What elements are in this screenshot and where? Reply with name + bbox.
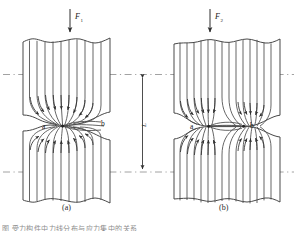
panel-caption-b: (b) [219, 203, 228, 212]
force-flow-diagram: F 1 [0, 0, 297, 231]
specimen-outline-a-upper [23, 38, 110, 126]
force-subscript-b: 2 [221, 18, 224, 23]
panel-b: F 2 [174, 9, 280, 203]
dimension-line-group: L [140, 78, 148, 169]
notch-label-b-right: b [250, 121, 254, 130]
force-arrow-b: F 2 [210, 9, 224, 32]
dimension-label: L [140, 123, 148, 128]
stress-concentration-point-b-left [207, 125, 210, 128]
notch-label-a-right: b [101, 119, 105, 128]
force-arrow-a: F 1 [70, 9, 84, 32]
figure-root: F 1 [0, 0, 297, 231]
force-label-a: F [74, 12, 80, 21]
force-label-b: F [214, 12, 220, 21]
panel-a: F 1 [23, 9, 110, 203]
force-subscript-a: 1 [81, 18, 84, 23]
stress-concentration-point-a [61, 125, 64, 128]
specimen-outline-a-lower [23, 125, 110, 203]
figure-bottom-caption: 图 受力构件中力线分布与应力集中的关系 [2, 223, 297, 231]
panel-caption-a: (a) [62, 203, 71, 212]
stress-concentration-point-b-right [242, 125, 245, 128]
